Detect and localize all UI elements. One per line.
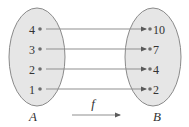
domain-point-4: [38, 27, 42, 31]
function-label: f: [91, 96, 97, 111]
codomain-point-10: [148, 27, 152, 31]
domain-label-3: 3: [29, 43, 35, 57]
set-b-name: B: [153, 109, 161, 124]
domain-label-2: 2: [29, 63, 35, 77]
domain-point-3: [38, 47, 42, 51]
set-a-name: A: [28, 109, 37, 124]
domain-label-1: 1: [29, 83, 35, 97]
codomain-point-2: [148, 87, 152, 91]
codomain-label-10: 10: [153, 23, 165, 37]
codomain-point-7: [148, 47, 152, 51]
domain-point-1: [38, 87, 42, 91]
domain-point-2: [38, 67, 42, 71]
set-a-ellipse: [9, 8, 65, 106]
codomain-label-2: 2: [153, 83, 159, 97]
codomain-point-4: [148, 67, 152, 71]
domain-label-4: 4: [29, 23, 35, 37]
codomain-label-7: 7: [153, 43, 159, 57]
codomain-label-4: 4: [153, 63, 159, 77]
function-mapping-diagram: 4 3 2 1 10 7 4 2 A B f: [0, 0, 189, 127]
